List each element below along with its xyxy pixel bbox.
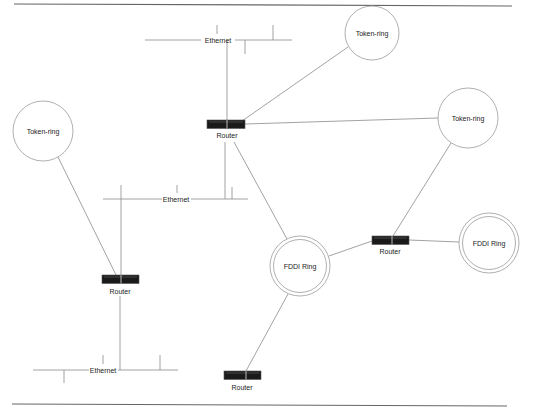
link-router-left-token-ring-left: [58, 157, 116, 275]
fddi-ring-label: FDDI Ring: [473, 240, 506, 248]
router-icon: [224, 371, 261, 380]
links: [58, 47, 459, 371]
ethernet-label: Ethernet: [163, 196, 190, 203]
token-ring-left[interactable]: Token-ring: [13, 101, 73, 161]
token-ring-label: Token-ring: [452, 115, 485, 123]
link-router-right-token-ring-right: [393, 143, 451, 236]
ethernet-segment-middle: Ethernet: [103, 142, 248, 275]
link-router-top-fddi-center: [234, 142, 287, 239]
ethernet-label: Ethernet: [90, 367, 117, 374]
router-label: Router: [109, 288, 131, 295]
router-label: Router: [379, 248, 401, 255]
fddi-ring-label: FDDI Ring: [284, 263, 317, 271]
link-router-bottom-fddi-center: [246, 294, 288, 371]
token-ring-top[interactable]: Token-ring: [345, 6, 399, 60]
router-left[interactable]: Router: [102, 275, 139, 295]
router-label: Router: [216, 132, 238, 139]
router-bottom[interactable]: Router: [224, 371, 261, 391]
router-right[interactable]: Router: [372, 236, 409, 255]
bottom-rule: [12, 404, 507, 406]
ethernet-segment-top: Ethernet: [145, 25, 292, 120]
ethernet-label: Ethernet: [205, 37, 232, 44]
token-ring-right[interactable]: Token-ring: [438, 88, 498, 148]
top-rule: [14, 4, 512, 6]
link-router-right-fddi-right: [409, 240, 459, 242]
link-router-top-token-ring-right: [245, 118, 438, 124]
ethernet-segment-bottom: Ethernet: [33, 296, 178, 383]
router-icon: [372, 236, 409, 245]
network-diagram: Ethernet Ethernet Ethernet Token-ring To…: [0, 0, 535, 413]
router-icon: [207, 120, 245, 129]
router-label: Router: [231, 384, 253, 391]
router-top[interactable]: Router: [207, 120, 245, 139]
fddi-ring-right[interactable]: FDDI Ring: [459, 213, 519, 273]
token-ring-label: Token-ring: [356, 30, 389, 38]
token-ring-label: Token-ring: [27, 128, 60, 136]
link-router-top-token-ring-top: [242, 47, 348, 121]
link-router-right-fddi-center: [329, 241, 372, 256]
fddi-ring-center[interactable]: FDDI Ring: [270, 236, 330, 296]
